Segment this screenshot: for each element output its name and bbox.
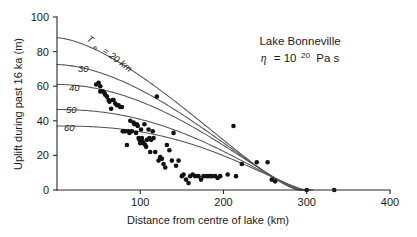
data-point: [160, 157, 165, 162]
data-point: [181, 172, 186, 177]
data-point: [171, 131, 176, 136]
x-axis-title: Distance from centre of lake (km): [127, 214, 289, 226]
y-axis-ticks: [53, 17, 57, 190]
data-point: [174, 163, 179, 168]
annotation-block: Lake Bonneville η = 10 20 Pa s: [259, 35, 340, 65]
data-point: [125, 143, 130, 148]
data-point: [142, 122, 147, 127]
curve-label-40: 40: [69, 82, 80, 93]
data-point: [134, 131, 139, 136]
data-point: [135, 124, 140, 129]
data-point: [218, 174, 223, 179]
viscosity-units: Pa s: [316, 52, 339, 64]
data-point: [139, 127, 144, 132]
data-point: [109, 106, 114, 111]
curve-label-50: 50: [66, 104, 77, 115]
y-tick-label: 20: [37, 149, 49, 161]
te-value: = 20 km: [101, 45, 135, 74]
y-axis-tick-labels: 020406080100: [31, 11, 49, 196]
y-tick-label: 40: [37, 115, 49, 127]
x-tick-label: 300: [298, 196, 316, 208]
data-point: [273, 179, 278, 184]
data-point: [254, 160, 259, 165]
data-point: [120, 105, 125, 110]
x-axis-tick-labels: 100200300400: [131, 196, 399, 208]
y-tick-label: 0: [43, 184, 49, 196]
data-point: [150, 129, 155, 134]
data-point: [225, 172, 230, 177]
te-subscript: e: [92, 43, 99, 51]
data-point: [163, 165, 168, 170]
y-tick-label: 60: [37, 80, 49, 92]
data-point: [165, 143, 170, 148]
data-point: [155, 94, 160, 99]
eta-symbol: η: [261, 52, 267, 65]
data-point: [167, 148, 172, 153]
data-point: [146, 127, 151, 132]
site-label: Lake Bonneville: [259, 35, 340, 47]
y-tick-label: 100: [31, 11, 49, 23]
chart-canvas: 020406080100 100200300400 Distance from …: [0, 0, 417, 237]
viscosity-exponent: 20: [301, 51, 310, 60]
data-point: [234, 174, 239, 179]
data-point: [98, 84, 103, 89]
x-tick-label: 200: [214, 196, 232, 208]
curve-label-30: 30: [78, 63, 89, 74]
data-point: [176, 158, 181, 163]
y-tick-label: 80: [37, 46, 49, 58]
data-point: [265, 160, 270, 165]
data-point: [170, 158, 175, 163]
data-point: [130, 129, 135, 134]
uplift-vs-distance-figure: 020406080100 100200300400 Distance from …: [0, 0, 417, 237]
data-point: [240, 162, 245, 167]
data-point: [151, 136, 156, 141]
x-axis-ticks: [140, 190, 390, 194]
data-point: [231, 124, 236, 129]
x-tick-label: 100: [131, 196, 149, 208]
data-point: [144, 144, 149, 149]
x-tick-label: 400: [381, 196, 399, 208]
data-point: [186, 181, 191, 186]
viscosity-equals: = 10: [274, 52, 297, 64]
data-point: [148, 150, 153, 155]
y-axis-title: Uplift during past 16 ka (m): [12, 38, 24, 170]
data-point: [153, 150, 158, 155]
curve-label-60: 60: [64, 122, 75, 133]
